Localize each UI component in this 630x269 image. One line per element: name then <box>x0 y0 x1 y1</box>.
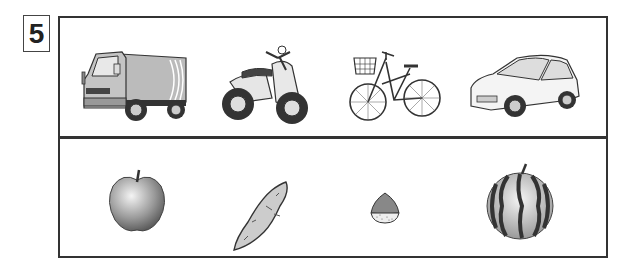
bicycle-picture[interactable] <box>346 46 442 124</box>
apple-picture[interactable] <box>106 168 168 234</box>
scooter-picture[interactable] <box>220 44 312 126</box>
chestnut-icon <box>369 191 401 225</box>
watermelon-icon <box>484 160 556 242</box>
row-divider <box>60 136 606 139</box>
bicycle-icon <box>346 46 442 124</box>
car-picture[interactable] <box>467 52 583 122</box>
sweet-potato-icon <box>226 178 292 254</box>
scooter-icon <box>220 44 312 126</box>
chestnut-picture[interactable] <box>369 191 401 225</box>
watermelon-picture[interactable] <box>484 160 556 242</box>
car-icon <box>467 52 583 122</box>
sweet-potato-picture[interactable] <box>226 178 292 254</box>
question-number: 5 <box>23 15 50 52</box>
apple-icon <box>106 168 168 234</box>
truck-icon <box>78 46 190 124</box>
truck-picture[interactable] <box>78 46 190 124</box>
picture-frame <box>58 16 608 258</box>
